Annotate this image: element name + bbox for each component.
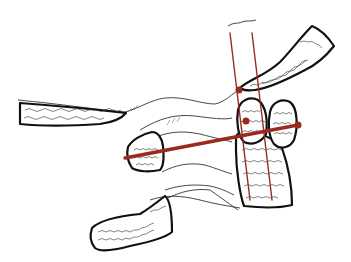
lower-left-bone [91, 189, 238, 250]
break-mark [228, 20, 256, 26]
upper-right-long-bone [240, 26, 334, 90]
joint-point-upper [236, 87, 243, 94]
joint-point-middle [243, 118, 250, 125]
anatomical-figure [0, 0, 351, 262]
figure-canvas [0, 0, 351, 262]
upper-left-long-bone [18, 89, 240, 126]
axis-end-right [295, 122, 302, 129]
central-round-bone-right [269, 100, 297, 147]
